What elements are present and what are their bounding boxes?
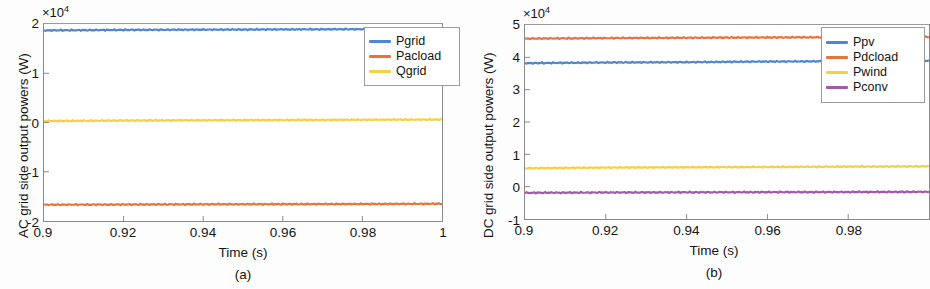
y-tick-b-2: 1 bbox=[466, 147, 520, 162]
x-tick-a-2: 0.94 bbox=[190, 225, 216, 240]
x-tick-b-1: 0.92 bbox=[592, 223, 618, 238]
x-tick-b-4: 0.98 bbox=[836, 223, 862, 238]
y-axis-exponent-b: ×104 bbox=[523, 5, 550, 21]
y-tick-b-3: 2 bbox=[466, 115, 520, 130]
legend-swatch-pacload bbox=[369, 55, 391, 58]
legend-label-ppv: Ppv bbox=[853, 36, 875, 49]
legend-label-pdcload: Pdcload bbox=[853, 51, 898, 64]
legend-item-pgrid[interactable]: Pgrid bbox=[369, 34, 454, 49]
legend-a[interactable]: PgridPacloadQgrid bbox=[364, 27, 460, 86]
exponent-prefix-b: ×10 bbox=[523, 6, 545, 21]
legend-item-qgrid[interactable]: Qgrid bbox=[369, 64, 454, 79]
x-tick-b-2: 0.94 bbox=[673, 223, 699, 238]
y-tick-b-6: 5 bbox=[466, 17, 520, 32]
legend-item-ppv[interactable]: Ppv bbox=[826, 35, 919, 50]
y-axis-title-a: AC grid side output powers (W) bbox=[16, 53, 31, 238]
panel-caption-a: (a) bbox=[43, 267, 443, 282]
legend-label-pwind: Pwind bbox=[853, 66, 887, 79]
legend-item-pwind[interactable]: Pwind bbox=[826, 65, 919, 80]
legend-label-pconv: Pconv bbox=[853, 81, 888, 94]
y-tick-a-2: 0 bbox=[0, 115, 39, 130]
y-tick-b-0: -1 bbox=[466, 213, 520, 228]
series-line-qgrid bbox=[44, 119, 442, 122]
exponent-power-a: 4 bbox=[64, 4, 69, 14]
x-tick-a-1: 0.92 bbox=[110, 225, 136, 240]
y-axis-title-b: DC grid side output powers (W) bbox=[481, 53, 496, 238]
legend-item-pacload[interactable]: Pacload bbox=[369, 49, 454, 64]
x-tick-a-5: 1 bbox=[439, 225, 447, 240]
legend-item-pconv[interactable]: Pconv bbox=[826, 80, 919, 95]
x-tick-b-0: 0.9 bbox=[515, 223, 534, 238]
exponent-prefix-a: ×10 bbox=[42, 5, 64, 20]
legend-b[interactable]: PpvPdcloadPwindPconv bbox=[821, 27, 925, 103]
x-tick-a-3: 0.96 bbox=[270, 225, 296, 240]
y-tick-b-4: 3 bbox=[466, 82, 520, 97]
y-tick-a-1: -1 bbox=[0, 165, 39, 180]
chart-panel-b: DC grid side output powers (W) ×104 -101… bbox=[466, 0, 930, 289]
y-tick-a-3: 1 bbox=[0, 65, 39, 80]
x-tick-a-4: 0.98 bbox=[350, 225, 376, 240]
legend-label-pgrid: Pgrid bbox=[396, 35, 425, 48]
legend-swatch-pgrid bbox=[369, 40, 391, 43]
legend-swatch-pconv bbox=[826, 86, 848, 89]
x-tick-b-3: 0.96 bbox=[754, 223, 780, 238]
legend-label-pacload: Pacload bbox=[396, 50, 441, 63]
x-axis-title-a: Time (s) bbox=[43, 245, 443, 260]
y-tick-a-4: 2 bbox=[0, 16, 39, 31]
legend-swatch-qgrid bbox=[369, 70, 391, 73]
legend-label-qgrid: Qgrid bbox=[396, 65, 427, 78]
series-line-pwind bbox=[525, 166, 929, 169]
legend-swatch-pdcload bbox=[826, 56, 848, 59]
x-tick-a-0: 0.9 bbox=[34, 225, 53, 240]
legend-swatch-pwind bbox=[826, 71, 848, 74]
y-tick-b-5: 4 bbox=[466, 49, 520, 64]
chart-panel-a: AC grid side output powers (W) ×104 -2-1… bbox=[0, 0, 466, 289]
series-line-pacload bbox=[44, 203, 442, 205]
panel-caption-b: (b) bbox=[524, 265, 904, 280]
y-axis-exponent-a: ×104 bbox=[42, 4, 69, 20]
x-axis-title-b: Time (s) bbox=[524, 243, 904, 258]
exponent-power-b: 4 bbox=[545, 5, 550, 15]
legend-item-pdcload[interactable]: Pdcload bbox=[826, 50, 919, 65]
series-line-pconv bbox=[525, 191, 929, 193]
figure-container: AC grid side output powers (W) ×104 -2-1… bbox=[0, 0, 930, 289]
legend-swatch-ppv bbox=[826, 41, 848, 44]
y-tick-b-1: 0 bbox=[466, 180, 520, 195]
